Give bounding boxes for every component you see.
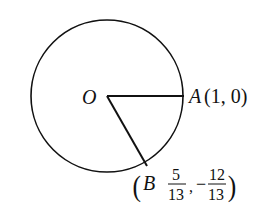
- b-x-denominator: 13: [168, 186, 184, 203]
- segment-ob: [107, 96, 147, 166]
- comma: ,: [189, 178, 193, 195]
- right-paren: ): [228, 169, 237, 202]
- left-paren: (: [133, 169, 142, 202]
- center-label: O: [82, 86, 96, 108]
- point-b-label: B ( 5 13 , − 12 13 ): [133, 166, 237, 203]
- point-a-coords: (1, 0): [204, 85, 247, 108]
- unit-circle-diagram: O A (1, 0) B ( 5 13 , − 12 13 ): [0, 0, 277, 219]
- b-y-numerator: 12: [209, 166, 225, 183]
- point-a-name: A: [187, 85, 202, 107]
- point-b-name: B: [143, 172, 155, 194]
- point-a-label: A (1, 0): [187, 85, 247, 108]
- b-y-sign: −: [196, 174, 206, 194]
- b-x-numerator: 5: [172, 166, 180, 183]
- b-y-denominator: 13: [208, 186, 224, 203]
